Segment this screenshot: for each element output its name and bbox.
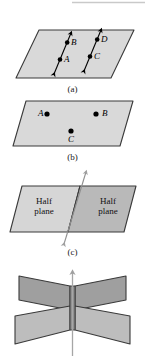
point-a-dot — [44, 111, 49, 116]
half-plane-label-left-line1: Half — [22, 196, 66, 206]
point-a-dot — [58, 57, 63, 62]
half-plane-label-left-line2: plane — [22, 206, 66, 216]
point-c-dot — [88, 54, 93, 59]
half-plane-label-left: Half plane — [22, 196, 66, 216]
point-label-a: A — [38, 109, 44, 118]
caption-panel-c: (c) — [0, 247, 145, 257]
plane-d-lower-right-wing — [75, 306, 130, 344]
plane-d-lower-left-wing — [15, 306, 70, 344]
point-d-dot — [95, 37, 100, 42]
point-label-c: C — [94, 52, 100, 61]
plane-d-upper-left-wing — [19, 276, 70, 310]
point-label-c: C — [68, 135, 74, 144]
figure-canvas — [0, 0, 145, 356]
point-label-a: A — [64, 55, 70, 64]
point-b-dot — [93, 111, 98, 116]
point-b-dot — [65, 40, 70, 45]
half-plane-label-right-line2: plane — [86, 206, 130, 216]
half-plane-label-right: Half plane — [86, 196, 130, 216]
point-label-b: B — [71, 38, 77, 47]
caption-panel-a: (a) — [0, 84, 145, 94]
figure-root: (a) (b) (c) B D A C A B C Half plane Hal… — [0, 0, 145, 356]
panel-d — [15, 272, 130, 356]
half-plane-label-right-line1: Half — [86, 196, 130, 206]
point-label-d: D — [101, 35, 108, 44]
point-label-b: B — [102, 109, 108, 118]
caption-panel-b: (b) — [0, 152, 145, 162]
plane-d-upper-right-wing — [75, 276, 126, 310]
point-c-dot — [68, 128, 73, 133]
